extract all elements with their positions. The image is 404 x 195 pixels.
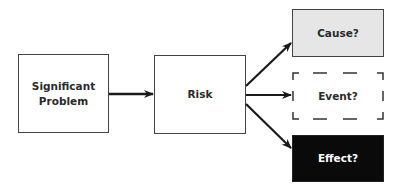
node-effect: Effect? xyxy=(292,135,384,182)
arrow-risk-to-cause xyxy=(246,43,291,86)
arrow-risk-to-effect xyxy=(246,104,291,148)
node-risk: Risk xyxy=(154,55,246,134)
node-cause: Cause? xyxy=(292,9,384,57)
node-label: Cause? xyxy=(317,26,359,40)
node-label: Event? xyxy=(318,89,358,103)
node-label: Significant xyxy=(32,79,95,93)
node-label: Risk xyxy=(188,87,213,101)
node-significant-problem: Significant Problem xyxy=(18,54,109,133)
node-label: Problem xyxy=(32,94,95,108)
node-label: Effect? xyxy=(318,151,358,165)
node-event: Event? xyxy=(292,72,384,120)
